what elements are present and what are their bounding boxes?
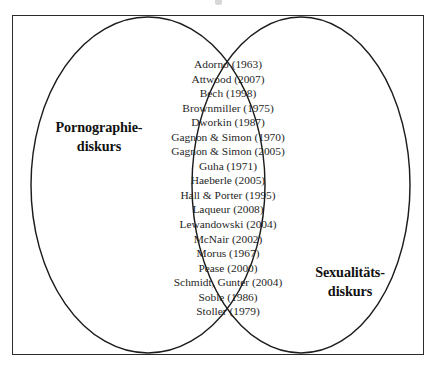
list-item: Dworkin (1987) — [148, 115, 308, 130]
list-item: Haeberle (2005) — [148, 173, 308, 188]
list-item: Schmidt, Gunter (2004) — [148, 275, 308, 290]
list-item: Attwood (2007) — [148, 72, 308, 87]
list-item: Guha (1971) — [148, 159, 308, 174]
venn-diagram-figure: Pornographie- diskurs Sexualitäts- disku… — [0, 0, 436, 368]
list-item: Gagnon & Simon (1970) — [148, 130, 308, 145]
list-item: Lewandowski (2004) — [148, 217, 308, 232]
intersection-reference-list: Adorno (1963) Attwood (2007) Bech (1998)… — [148, 57, 308, 319]
set-label-line-2: diskurs — [300, 282, 400, 301]
list-item: Soble (1986) — [148, 290, 308, 305]
list-item: McNair (2002) — [148, 232, 308, 247]
list-item: Laqueur (2008) — [148, 202, 308, 217]
set-label-line-1: Sexualitäts- — [300, 263, 400, 282]
cropped-text-artifact — [215, 0, 222, 5]
set-label-line-1: Pornographie- — [38, 118, 160, 137]
list-item: Hall & Porter (1995) — [148, 188, 308, 203]
list-item: Adorno (1963) — [148, 57, 308, 72]
list-item: Bech (1998) — [148, 86, 308, 101]
list-item: Morus (1967) — [148, 246, 308, 261]
set-label-sexualitaets-diskurs: Sexualitäts- diskurs — [300, 263, 400, 301]
list-item: Gagnon & Simon (2005) — [148, 144, 308, 159]
list-item: Stoller (1979) — [148, 304, 308, 319]
list-item: Brownmiller (1975) — [148, 101, 308, 116]
list-item: Pease (2000) — [148, 261, 308, 276]
set-label-line-2: diskurs — [38, 137, 160, 156]
set-label-pornographie-diskurs: Pornographie- diskurs — [38, 118, 160, 156]
